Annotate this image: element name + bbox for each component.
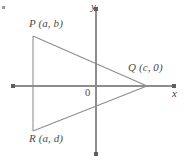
vertex-label-r: R (a, d): [29, 133, 63, 144]
vertex-label-q: Q (c, 0): [128, 62, 163, 73]
triangle-pqr-group: [33, 36, 147, 131]
vertex-label-p: P (a, b): [29, 18, 63, 29]
y-axis-label: y: [91, 1, 96, 12]
coordinate-figure: P (a, b) Q (c, 0) R (a, d) 0 y x: [0, 0, 187, 163]
origin-label: 0: [85, 88, 90, 99]
x-axis-left-arrow-icon: [11, 84, 15, 88]
x-axis-label: x: [172, 88, 177, 99]
y-axis-bottom-arrow-icon: [94, 152, 98, 156]
